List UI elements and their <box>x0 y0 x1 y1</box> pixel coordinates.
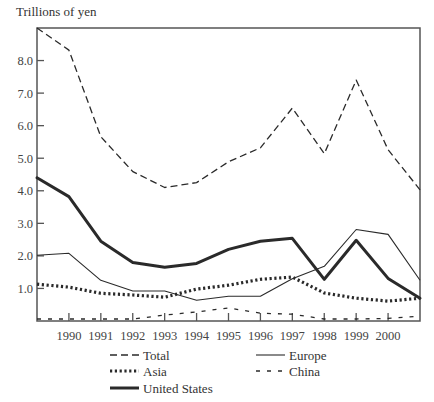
legend-item-total: Total <box>110 348 170 363</box>
legend-item-europe: Europe <box>256 348 327 363</box>
y-axis: 1.02.03.04.05.06.07.08.0 <box>17 54 44 296</box>
y-tick-label: 5.0 <box>17 152 33 166</box>
series-europe-line <box>37 230 420 301</box>
legend-item-united-states: United States <box>110 381 213 396</box>
y-tick-label: 3.0 <box>17 217 33 231</box>
x-tick-label: 1993 <box>152 329 177 343</box>
series-asia-line <box>37 277 420 301</box>
legend-label: Europe <box>289 348 327 363</box>
legend-label: China <box>289 364 320 379</box>
y-tick-label: 6.0 <box>17 119 33 133</box>
y-tick-label: 1.0 <box>17 282 33 296</box>
legend-item-asia: Asia <box>110 364 167 379</box>
y-tick-label: 7.0 <box>17 87 33 101</box>
x-tick-label: 1995 <box>216 329 241 343</box>
series-united-states-line <box>37 178 420 298</box>
x-tick-label: 1994 <box>184 329 210 343</box>
legend-label: Total <box>143 348 170 363</box>
series-lines <box>37 28 420 319</box>
legend-item-china: China <box>256 364 320 379</box>
x-tick-label: 1996 <box>248 329 273 343</box>
line-chart: 1.02.03.04.05.06.07.08.0 199019911992199… <box>0 0 434 402</box>
x-tick-label: 1997 <box>280 329 305 343</box>
legend-label: Asia <box>143 364 167 379</box>
legend-label: United States <box>143 381 213 396</box>
x-tick-label: 1991 <box>88 329 113 343</box>
x-axis: 1990199119921993199419951996199719981999… <box>56 313 400 343</box>
x-tick-label: 1998 <box>312 329 337 343</box>
x-tick-label: 1999 <box>344 329 369 343</box>
legend: TotalEuropeAsiaChinaUnited States <box>110 348 327 396</box>
y-tick-label: 4.0 <box>17 184 33 198</box>
plot-border <box>37 28 420 321</box>
plot-frame <box>37 28 420 321</box>
series-total-line <box>37 28 420 190</box>
x-tick-label: 1992 <box>120 329 145 343</box>
y-tick-label: 8.0 <box>17 54 33 68</box>
x-tick-label: 1990 <box>56 329 81 343</box>
x-tick-label: 2000 <box>376 329 401 343</box>
y-tick-label: 2.0 <box>17 249 33 263</box>
